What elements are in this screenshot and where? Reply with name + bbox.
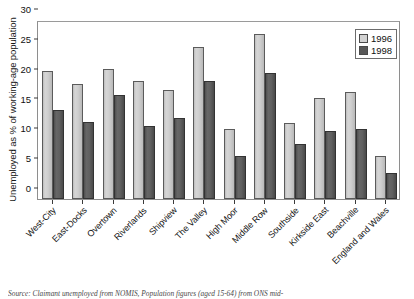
x-axis-tick [264, 200, 265, 204]
bar-1998-shipview [174, 118, 185, 199]
bar-1996-west-city [42, 71, 53, 199]
x-axis-tick [234, 200, 235, 204]
bar-1996-shipview [163, 90, 174, 199]
x-axis-tick [385, 200, 386, 204]
bar-group [103, 22, 125, 199]
bar-1998-the-valley [204, 81, 215, 199]
legend-label-1996: 1996 [371, 33, 392, 44]
x-axis-tick [52, 200, 53, 204]
legend-label-1998: 1998 [371, 45, 392, 56]
x-axis-tick [113, 200, 114, 204]
bar-group [72, 22, 94, 199]
x-axis-tick [82, 200, 83, 204]
bar-1998-overtown [114, 95, 125, 199]
bar-1998-riverlands [144, 126, 155, 199]
bar-1998-southside [295, 144, 306, 199]
bar-group [193, 22, 215, 199]
y-axis-tick: 25 [15, 33, 38, 44]
y-axis-tick: 30 [15, 4, 38, 15]
bar-1998-england-and-wales [386, 173, 397, 199]
bar-group [163, 22, 185, 199]
bar-1996-the-valley [193, 47, 204, 199]
x-axis-label: England and Wales [330, 205, 391, 266]
bar-1996-riverlands [133, 81, 144, 199]
bar-1996-beachville [345, 92, 356, 199]
bar-group [254, 22, 276, 199]
x-axis-tick [173, 200, 174, 204]
y-axis-tick: 0 [15, 183, 38, 194]
bar-1998-east-docks [83, 122, 94, 199]
bar-group [133, 22, 155, 199]
bar-group [314, 22, 336, 199]
x-axis-label: The Valley [173, 205, 209, 241]
source-caption: Source: Claimant unemployed from NOMIS, … [8, 289, 414, 298]
bar-1998-middle-row [265, 73, 276, 199]
plot-inner: 051015202530 [38, 22, 399, 199]
bar-1998-high-moor [235, 156, 246, 199]
x-axis-tick [324, 200, 325, 204]
bar-1998-west-city [53, 110, 64, 199]
bar-1998-kirkside-east [325, 131, 336, 199]
bar-1996-east-docks [72, 84, 83, 199]
bar-1996-high-moor [224, 129, 235, 199]
x-axis-tick [355, 200, 356, 204]
y-axis-tick: 10 [15, 123, 38, 134]
bar-1996-southside [284, 123, 295, 199]
x-axis-tick [143, 200, 144, 204]
plot-area: 051015202530 [37, 21, 400, 200]
bar-group [284, 22, 306, 199]
bar-group [42, 22, 64, 199]
bar-chart-figure: Unemployed as % of working-age populatio… [0, 0, 414, 299]
x-axis-tick [203, 200, 204, 204]
x-axis-tick [294, 200, 295, 204]
y-axis-tick: 20 [15, 63, 38, 74]
y-axis-tick: 5 [15, 153, 38, 164]
legend-item-1996: 1996 [359, 32, 392, 44]
legend-swatch-1996-icon [359, 34, 368, 43]
bar-1996-overtown [103, 69, 114, 199]
bar-group [224, 22, 246, 199]
y-axis-tick: 15 [15, 93, 38, 104]
legend-item-1998: 1998 [359, 44, 392, 56]
bar-1996-england-and-wales [375, 156, 386, 199]
bar-1998-beachville [356, 129, 367, 199]
legend-swatch-1998-icon [359, 46, 368, 55]
bar-1996-kirkside-east [314, 98, 325, 199]
chart-legend: 1996 1998 [355, 29, 397, 59]
bar-1996-middle-row [254, 34, 265, 199]
